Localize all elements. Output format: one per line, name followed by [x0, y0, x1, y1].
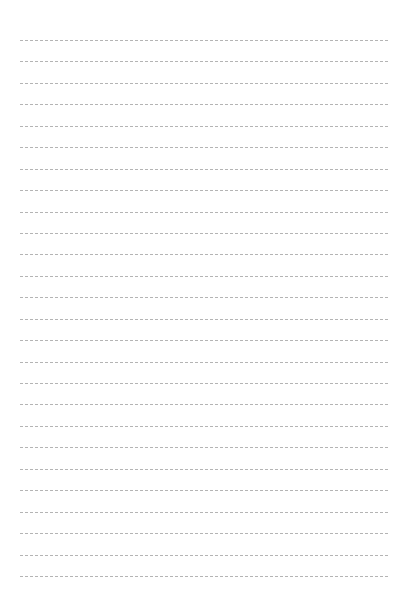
ruled-line: [20, 233, 388, 234]
ruled-line: [20, 447, 388, 448]
ruled-line: [20, 169, 388, 170]
ruled-line: [20, 104, 388, 105]
ruled-line: [20, 254, 388, 255]
ruled-line: [20, 40, 388, 41]
ruled-line: [20, 83, 388, 84]
ruled-line: [20, 362, 388, 363]
ruled-line: [20, 490, 388, 491]
lined-page: [0, 0, 410, 606]
ruled-line: [20, 297, 388, 298]
ruled-line: [20, 469, 388, 470]
ruled-line: [20, 404, 388, 405]
ruled-line: [20, 383, 388, 384]
ruled-line: [20, 426, 388, 427]
ruled-line: [20, 61, 388, 62]
ruled-line: [20, 533, 388, 534]
ruled-line: [20, 126, 388, 127]
ruled-line: [20, 319, 388, 320]
ruled-line: [20, 276, 388, 277]
ruled-line: [20, 340, 388, 341]
ruled-line: [20, 555, 388, 556]
ruled-line: [20, 512, 388, 513]
ruled-line: [20, 212, 388, 213]
ruled-line: [20, 576, 388, 577]
ruled-line: [20, 190, 388, 191]
ruled-line: [20, 147, 388, 148]
